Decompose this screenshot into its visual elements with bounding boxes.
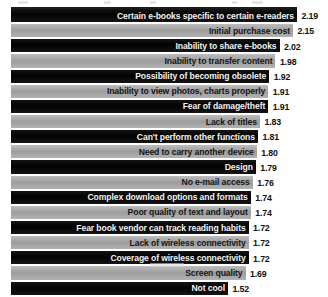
bar-value-label: 1.92	[274, 72, 291, 81]
bar-category-label: Inability to share e-books	[175, 42, 276, 51]
bar: Certain e-books specific to certain e-re…	[11, 9, 297, 22]
bar-category-label: Coverage of wireless connectivity	[110, 254, 245, 263]
bar-category-label: Fear of damage/theft	[183, 102, 266, 111]
bar-value-label: 1.80	[261, 148, 278, 157]
bar: Poor quality of text and layout	[11, 206, 251, 219]
bar-value-label: 1.91	[273, 88, 290, 97]
bar-row: Can't perform other functions1.81	[0, 130, 328, 145]
bar-row: Complex download options and formats1.74	[0, 191, 328, 206]
bar-category-label: Lack of titles	[206, 117, 257, 126]
bar: Lack of titles	[11, 115, 260, 128]
bar: Lack of wireless connectivity	[11, 236, 249, 249]
bar-row: Inability to share e-books2.02	[0, 39, 328, 54]
bar: Initial purchase cost	[11, 24, 293, 37]
bar: Design	[11, 160, 256, 173]
clipped-top-artifacts	[0, 0, 328, 6]
bar-row: Certain e-books specific to certain e-re…	[0, 9, 328, 24]
bar-row: Fear of damage/theft1.91	[0, 100, 328, 115]
bar-value-label: 1.72	[253, 239, 270, 248]
bar-value-label: 1.72	[253, 224, 270, 233]
bar: Coverage of wireless connectivity	[11, 251, 249, 264]
bar-row: Screen quality1.69	[0, 266, 328, 281]
bar-category-label: Inability to view photos, charts properl…	[107, 87, 265, 96]
bar: No e-mail access	[11, 176, 253, 189]
bar-value-label: 1.72	[253, 254, 270, 263]
bar-value-label: 1.83	[264, 118, 281, 127]
bar-value-label: 1.52	[233, 284, 250, 293]
bar-category-label: Need to carry another device	[139, 148, 254, 157]
bar-value-label: 2.02	[284, 42, 301, 51]
bar-value-label: 2.19	[302, 12, 319, 21]
bar: Possibility of becoming obsolete	[11, 70, 269, 83]
bar-value-label: 1.91	[273, 103, 290, 112]
bar-row: Initial purchase cost2.15	[0, 24, 328, 39]
bar-category-label: Lack of wireless connectivity	[130, 238, 246, 247]
bar-category-label: Possibility of becoming obsolete	[135, 72, 266, 81]
bar-row: Possibility of becoming obsolete1.92	[0, 70, 328, 85]
bar-value-label: 1.69	[250, 269, 267, 278]
bar-category-label: Fear book vendor can track reading habit…	[76, 223, 245, 232]
bar-row: No e-mail access1.76	[0, 176, 328, 191]
bar: Can't perform other functions	[11, 130, 258, 143]
bar-category-label: Not cool	[191, 284, 225, 293]
bar-value-label: 2.15	[297, 27, 314, 36]
bar-category-label: Complex download options and formats	[88, 193, 248, 202]
bar-value-label: 1.74	[255, 209, 272, 218]
bar-value-label: 1.76	[257, 178, 274, 187]
bar: Complex download options and formats	[11, 191, 251, 204]
bar-rows: Certain e-books specific to certain e-re…	[0, 9, 328, 297]
bar-row: Not cool1.52	[0, 282, 328, 297]
bar: Screen quality	[11, 266, 246, 279]
bar-row: Need to carry another device1.80	[0, 145, 328, 160]
bar-category-label: Inability to transfer content	[165, 57, 273, 66]
bar-row: Design1.79	[0, 160, 328, 175]
bar-category-label: Certain e-books specific to certain e-re…	[117, 11, 294, 20]
bar-row: Lack of wireless connectivity1.72	[0, 236, 328, 251]
bar: Fear book vendor can track reading habit…	[11, 221, 249, 234]
bar: Not cool	[11, 282, 228, 295]
bar: Inability to share e-books	[11, 39, 280, 52]
bar-category-label: Screen quality	[185, 269, 242, 278]
bar-row: Inability to view photos, charts properl…	[0, 85, 328, 100]
bar-value-label: 1.81	[262, 133, 279, 142]
bar: Fear of damage/theft	[11, 100, 268, 113]
bar-row: Poor quality of text and layout1.74	[0, 206, 328, 221]
bar-category-label: No e-mail access	[182, 178, 250, 187]
bar-category-label: Can't perform other functions	[137, 132, 255, 141]
bar-row: Lack of titles1.83	[0, 115, 328, 130]
bar-value-label: 1.79	[260, 163, 277, 172]
bar-category-label: Initial purchase cost	[209, 26, 290, 35]
bar-value-label: 1.74	[255, 194, 272, 203]
bar-value-label: 1.98	[280, 57, 297, 66]
bar: Inability to transfer content	[11, 54, 275, 67]
bar-row: Inability to transfer content1.98	[0, 54, 328, 69]
bar-category-label: Design	[225, 163, 253, 172]
bar: Need to carry another device	[11, 145, 257, 158]
bar-row: Fear book vendor can track reading habit…	[0, 221, 328, 236]
bar-category-label: Poor quality of text and layout	[128, 208, 248, 217]
scan-artifact	[150, 263, 184, 267]
bar: Inability to view photos, charts properl…	[11, 85, 268, 98]
